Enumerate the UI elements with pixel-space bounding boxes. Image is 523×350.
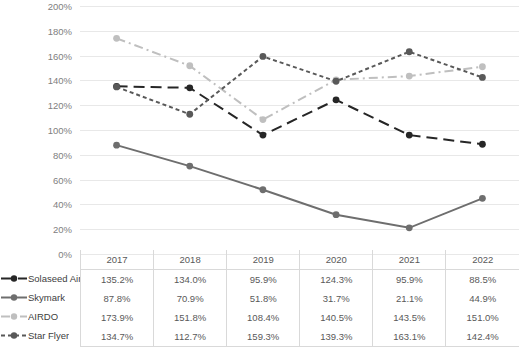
data-point-marker <box>113 142 120 149</box>
table-cell: 134.7% <box>81 327 154 347</box>
table-cell: 124.3% <box>300 270 373 290</box>
data-point-marker <box>186 84 193 91</box>
table-column-header: 2018 <box>154 250 227 270</box>
table-column-header: 2021 <box>373 250 446 270</box>
data-point-marker <box>406 132 413 139</box>
data-point-marker <box>479 74 486 81</box>
series-line-star-flyer <box>117 52 483 114</box>
table-cell: 159.3% <box>227 327 300 347</box>
legend-item-label: Skymark <box>28 288 65 307</box>
data-point-marker <box>260 53 267 60</box>
table-row: 87.8%70.9%51.8%31.7%21.1%44.9% <box>81 289 520 308</box>
top-caption <box>0 0 523 5</box>
y-axis-tick-label: 200% <box>0 1 72 12</box>
data-point-marker <box>260 116 267 123</box>
data-point-marker <box>113 84 120 91</box>
table-column-header: 2019 <box>227 250 300 270</box>
legend-marker-icon <box>0 326 28 345</box>
data-point-marker <box>260 132 267 139</box>
y-axis-tick-label: 40% <box>0 199 72 210</box>
table-cell: 21.1% <box>373 289 446 308</box>
table-body: 135.2%134.0%95.9%124.3%95.9%88.5%87.8%70… <box>81 270 520 347</box>
data-point-marker <box>479 195 486 202</box>
legend-marker-icon <box>0 307 28 326</box>
table-cell: 31.7% <box>300 289 373 308</box>
legend-item-label: Solaseed Air <box>28 269 80 288</box>
table-row: 135.2%134.0%95.9%124.3%95.9%88.5% <box>81 270 520 290</box>
table-cell: 44.9% <box>446 289 519 308</box>
y-axis-tick-label: 60% <box>0 174 72 185</box>
data-table-section: Solaseed AirSkymarkAIRDOStar Flyer 20172… <box>0 250 523 350</box>
table-cell: 95.9% <box>227 270 300 290</box>
table-column-header: 2017 <box>81 250 154 270</box>
legend-marker-icon <box>0 269 28 288</box>
table-column-header: 2020 <box>300 250 373 270</box>
data-point-marker <box>186 163 193 170</box>
y-axis-tick-label: 100% <box>0 125 72 136</box>
table-cell: 151.8% <box>154 308 227 327</box>
y-axis-tick-label: 160% <box>0 50 72 61</box>
data-point-marker <box>333 78 340 85</box>
table-cell: 95.9% <box>373 270 446 290</box>
table-cell: 134.0% <box>154 270 227 290</box>
legend-item-star-flyer[interactable]: Star Flyer <box>0 326 80 345</box>
table-row: 134.7%112.7%159.3%139.3%163.1%142.4% <box>81 327 520 347</box>
table-cell: 142.4% <box>446 327 519 347</box>
table-cell: 139.3% <box>300 327 373 347</box>
legend-marker-icon <box>0 288 28 307</box>
data-point-marker <box>479 141 486 148</box>
line-chart-plot: 200%180%160%140%120%100%80%60%40%20%0% <box>0 6 523 254</box>
data-point-marker <box>406 73 413 80</box>
table-cell: 135.2% <box>81 270 154 290</box>
table-cell: 163.1% <box>373 327 446 347</box>
table-cell: 143.5% <box>373 308 446 327</box>
table-cell: 108.4% <box>227 308 300 327</box>
data-point-marker <box>260 186 267 193</box>
table-cell: 140.5% <box>300 308 373 327</box>
data-point-marker <box>186 62 193 69</box>
legend-item-label: Star Flyer <box>28 326 69 345</box>
data-point-marker <box>186 111 193 118</box>
table-header-row: 201720182019202020212022 <box>81 250 520 270</box>
table-row: 173.9%151.8%108.4%140.5%143.5%151.0% <box>81 308 520 327</box>
table-cell: 151.0% <box>446 308 519 327</box>
legend-item-skymark[interactable]: Skymark <box>0 288 80 307</box>
table-column-header: 2022 <box>446 250 519 270</box>
data-table: 201720182019202020212022 135.2%134.0%95.… <box>80 250 519 347</box>
series-line-skymark <box>117 145 483 228</box>
table-cell: 51.8% <box>227 289 300 308</box>
table-cell: 70.9% <box>154 289 227 308</box>
chart-screenshot: 200%180%160%140%120%100%80%60%40%20%0% S… <box>0 0 523 350</box>
y-axis-tick-label: 180% <box>0 25 72 36</box>
y-axis-tick-label: 20% <box>0 224 72 235</box>
chart-legend: Solaseed AirSkymarkAIRDOStar Flyer <box>0 250 80 350</box>
data-point-marker <box>333 96 340 103</box>
legend-item-label: AIRDO <box>28 307 58 326</box>
legend-item-airdo[interactable]: AIRDO <box>0 307 80 326</box>
table-cell: 88.5% <box>446 270 519 290</box>
table-cell: 112.7% <box>154 327 227 347</box>
legend-item-solaseed-air[interactable]: Solaseed Air <box>0 269 80 288</box>
y-axis-tick-label: 80% <box>0 149 72 160</box>
table-cell: 87.8% <box>81 289 154 308</box>
data-point-marker <box>406 48 413 55</box>
data-point-marker <box>333 211 340 218</box>
series-line-solaseed-air <box>117 86 483 144</box>
y-axis-tick-label: 120% <box>0 100 72 111</box>
data-point-marker <box>479 63 486 70</box>
table-cell: 173.9% <box>81 308 154 327</box>
y-axis-tick-label: 140% <box>0 75 72 86</box>
data-point-marker <box>113 35 120 42</box>
data-point-marker <box>406 224 413 231</box>
series-lines <box>80 6 519 254</box>
